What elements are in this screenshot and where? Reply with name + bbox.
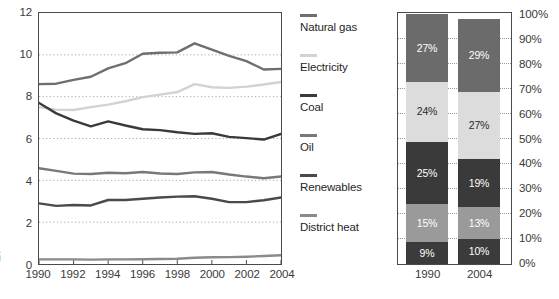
legend-swatch-icon bbox=[300, 54, 317, 57]
bar-segment-oil[interactable]: 25% bbox=[406, 142, 448, 204]
legend-label: Coal bbox=[300, 101, 396, 113]
legend-label: District heat bbox=[300, 221, 396, 233]
legend-swatch-icon bbox=[300, 14, 317, 17]
x-tick-label: 1998 bbox=[165, 268, 190, 280]
bar-y-tick-label: 50% bbox=[519, 133, 542, 145]
bar-y-tick-label: 10% bbox=[519, 232, 542, 244]
line-series-district-heat bbox=[39, 255, 281, 259]
y-tick-label: 2 bbox=[26, 217, 32, 229]
bar-segment-renewables[interactable]: 13% bbox=[458, 207, 500, 239]
legend-swatch-icon bbox=[300, 214, 317, 217]
stacked-bar-2004[interactable]: 10%13%19%27%29% bbox=[458, 14, 500, 264]
bar-segment-oil[interactable]: 19% bbox=[458, 159, 500, 206]
bar-y-tick-label: 0% bbox=[519, 257, 535, 269]
line-chart-plot-area bbox=[38, 12, 282, 265]
legend-label: Oil bbox=[300, 141, 396, 153]
bar-segment-label: 24% bbox=[417, 106, 437, 117]
legend-item-coal[interactable]: Coal bbox=[300, 94, 396, 113]
line-series-natural-gas bbox=[39, 43, 281, 84]
line-chart-svg bbox=[39, 13, 281, 264]
x-tick-label: 1996 bbox=[130, 268, 155, 280]
figure-root: 024681012 199019921994199619982000200220… bbox=[0, 0, 559, 299]
x-tick-label: 2004 bbox=[269, 268, 294, 280]
stacked-bar-y-axis: 0%10%20%30%40%50%60%70%80%90%100% bbox=[513, 0, 559, 299]
legend-item-electricity[interactable]: Electricity bbox=[300, 54, 396, 73]
bar-segment-renewables[interactable]: 15% bbox=[406, 204, 448, 241]
stacked-bar-1990[interactable]: 9%15%25%24%27% bbox=[406, 14, 448, 264]
bar-segment-electricity[interactable]: 24% bbox=[406, 82, 448, 142]
x-tick-label: 2000 bbox=[200, 268, 225, 280]
bar-segment-label: 15% bbox=[417, 218, 437, 229]
x-tick-label: 1990 bbox=[25, 268, 50, 280]
legend-label: Natural gas bbox=[300, 21, 396, 33]
bar-y-tick-label: 40% bbox=[519, 157, 542, 169]
bar-segment-label: 27% bbox=[417, 43, 437, 54]
bar-segment-label: 27% bbox=[469, 120, 489, 131]
legend-label: Renewables bbox=[300, 181, 396, 193]
legend-label: Electricity bbox=[300, 61, 396, 73]
stacked-bar-chart-panel: 9%15%25%24%27%10%13%19%27%29% 0%10%20%30… bbox=[395, 0, 559, 299]
y-tick-label: 4 bbox=[26, 175, 32, 187]
line-series-renewables bbox=[39, 196, 281, 206]
bar-segment-label: 10% bbox=[469, 246, 489, 257]
bar-segment-district-heat[interactable]: 9% bbox=[406, 242, 448, 264]
bar-segment-district-heat[interactable]: 10% bbox=[458, 239, 500, 264]
legend-swatch-icon bbox=[300, 94, 317, 97]
bar-y-tick-label: 60% bbox=[519, 108, 542, 120]
line-series-coal bbox=[39, 103, 281, 140]
y-tick-label: 8 bbox=[26, 90, 32, 102]
bar-segment-natural-gas[interactable]: 27% bbox=[406, 14, 448, 81]
bar-segment-natural-gas[interactable]: 29% bbox=[458, 19, 500, 91]
legend-item-renewables[interactable]: Renewables bbox=[300, 174, 396, 193]
bar-segment-label: 19% bbox=[469, 178, 489, 189]
line-chart-x-axis: 19901992199419961998200020022004 bbox=[0, 268, 296, 290]
line-chart-panel: 024681012 199019921994199619982000200220… bbox=[0, 0, 296, 299]
y-axis-unit-label: EJ bbox=[0, 249, 2, 262]
legend-swatch-icon bbox=[300, 134, 317, 137]
bar-segment-electricity[interactable]: 27% bbox=[458, 92, 500, 159]
x-tick-label: 1994 bbox=[95, 268, 120, 280]
stacked-bar-plot-area: 9%15%25%24%27%10%13%19%27%29% bbox=[397, 12, 512, 265]
bar-y-tick-label: 90% bbox=[519, 33, 542, 45]
legend-item-natural-gas[interactable]: Natural gas bbox=[300, 14, 396, 33]
bar-segment-label: 29% bbox=[469, 50, 489, 61]
bar-y-tick-label: 100% bbox=[519, 8, 548, 20]
y-tick-label: 6 bbox=[26, 133, 32, 145]
bar-y-tick-label: 30% bbox=[519, 182, 542, 194]
y-tick-label: 12 bbox=[19, 6, 32, 18]
y-tick-label: 10 bbox=[19, 48, 32, 60]
bar-x-tick-label: 2004 bbox=[467, 268, 492, 280]
bar-segment-label: 9% bbox=[420, 248, 435, 259]
line-chart-y-axis: 024681012 bbox=[0, 0, 36, 299]
stacked-bar-x-axis: 19902004 bbox=[395, 268, 515, 290]
bar-segment-label: 13% bbox=[469, 218, 489, 229]
bar-x-tick-label: 1990 bbox=[415, 268, 440, 280]
bar-segment-label: 25% bbox=[417, 168, 437, 179]
bar-y-tick-label: 20% bbox=[519, 207, 542, 219]
x-tick-label: 1992 bbox=[60, 268, 85, 280]
bar-y-tick-label: 80% bbox=[519, 58, 542, 70]
legend-swatch-icon bbox=[300, 174, 317, 177]
line-series-electricity bbox=[39, 82, 281, 110]
legend-item-oil[interactable]: Oil bbox=[300, 134, 396, 153]
legend-item-district-heat[interactable]: District heat bbox=[300, 214, 396, 233]
line-series-oil bbox=[39, 168, 281, 178]
legend: Natural gasElectricityCoalOilRenewablesD… bbox=[297, 0, 397, 299]
x-tick-label: 2002 bbox=[235, 268, 260, 280]
bar-y-tick-label: 70% bbox=[519, 83, 542, 95]
